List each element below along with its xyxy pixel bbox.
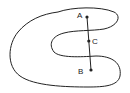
label-b: B [78,67,83,76]
segment-ab [87,17,91,70]
point-b [89,68,92,71]
label-a: A [77,11,83,20]
point-c [87,39,90,42]
diagram-canvas: A C B [0,0,130,93]
label-c: C [92,37,98,46]
c-shaped-region [10,8,120,87]
point-a [85,15,88,18]
